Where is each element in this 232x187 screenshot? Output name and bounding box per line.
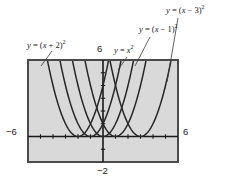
axis-number-left: −6	[6, 127, 17, 137]
axis-number-top: 6	[97, 44, 102, 54]
curve-label-x-minus-1: y = (x − 1)2	[139, 25, 178, 34]
parabola-family-figure	[0, 0, 232, 187]
curve-label-x-minus-3: y = (x − 3)2	[166, 6, 205, 15]
curve-label-x-plus-2: y = (x + 2)2	[27, 41, 66, 50]
curve-label-x-squared: y = x2	[114, 46, 134, 55]
axis-number-bottom: −2	[97, 166, 108, 176]
axis-number-right: 6	[183, 127, 188, 137]
